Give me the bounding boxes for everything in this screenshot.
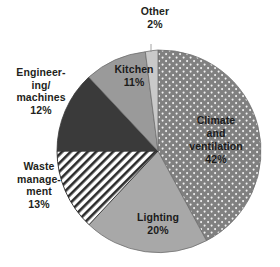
pie-label-engineering-machines: Engineer- ing/ machines 12% — [2, 66, 80, 116]
pie-chart: Other 2% Engineer- ing/ machines 12% Was… — [0, 0, 280, 267]
pie-label-waste-management: Waste manage- ment 13% — [2, 160, 76, 210]
pie-label-lighting: Lighting 20% — [120, 211, 196, 237]
pie-label-climate-and-ventilation: Climate and ventilation 42% — [178, 114, 254, 166]
pie-label-other: Other 2% — [113, 5, 197, 30]
pie-label-kitchen: Kitchen 11% — [98, 63, 170, 89]
